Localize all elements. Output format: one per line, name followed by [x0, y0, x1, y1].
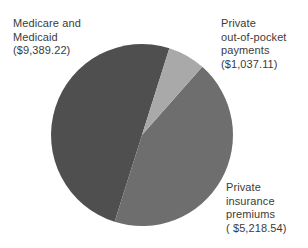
pie-label-out-of-pocket-line-2: out-of-pocket — [221, 31, 287, 45]
pie-label-premiums-line-1: Private — [226, 181, 287, 195]
pie-label-out-of-pocket-line-1: Private — [221, 17, 287, 31]
pie-slices — [51, 44, 233, 226]
pie-label-medicare-line-1: Medicare and — [13, 17, 81, 31]
pie-label-medicare-and-medicaid: Medicare and Medicaid ($9,389.22) — [13, 17, 81, 58]
pie-label-medicare-line-2: Medicaid — [13, 31, 81, 45]
pie-label-premiums-value: ( $5,218.54) — [226, 222, 287, 236]
pie-chart-figure: Medicare and Medicaid ($9,389.22) Privat… — [0, 0, 308, 248]
pie-label-private-out-of-pocket-payments: Private out-of-pocket payments ($1,037.1… — [221, 17, 287, 71]
pie-label-medicare-value: ($9,389.22) — [13, 44, 81, 58]
pie-label-premiums-line-3: premiums — [226, 208, 287, 222]
pie-label-premiums-line-2: insurance — [226, 195, 287, 209]
pie-label-private-insurance-premiums: Private insurance premiums ( $5,218.54) — [226, 181, 287, 235]
pie-label-out-of-pocket-line-3: payments — [221, 44, 287, 58]
pie-label-out-of-pocket-value: ($1,037.11) — [221, 58, 287, 72]
